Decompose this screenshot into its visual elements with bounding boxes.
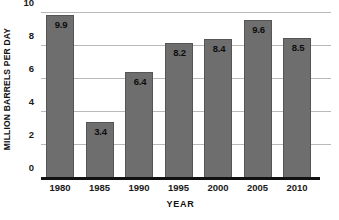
x-tick-label: 2010	[275, 182, 319, 193]
bar-group[interactable]: 9.6	[244, 13, 272, 178]
bar-value-label: 3.4	[87, 126, 115, 137]
bar-group[interactable]: 8.4	[204, 13, 232, 178]
bar-value-label: 9.9	[47, 19, 75, 30]
y-tick-label: 10	[23, 0, 34, 8]
bar-group[interactable]: 8.2	[165, 13, 193, 178]
bar[interactable]: 8.4	[204, 39, 232, 178]
bar[interactable]: 3.4	[86, 122, 114, 178]
x-tick-label: 1995	[157, 182, 201, 193]
bar-group[interactable]: 8.5	[283, 13, 311, 178]
x-axis-tick-labels: 1980198519901995200020052010	[41, 182, 331, 196]
x-axis-title: YEAR	[41, 199, 320, 209]
x-tick-label: 1980	[38, 182, 82, 193]
y-tick-label: 0	[29, 162, 34, 173]
bar[interactable]: 8.2	[165, 43, 193, 178]
x-axis-line	[41, 177, 320, 180]
bars-layer: 9.93.46.48.28.49.68.5	[41, 13, 331, 178]
x-tick-label: 2005	[236, 182, 280, 193]
y-tick-label: 2	[29, 129, 34, 140]
y-axis-tick-labels: 1086420	[16, 13, 38, 178]
bar[interactable]: 9.6	[244, 20, 272, 178]
x-tick-label: 1985	[78, 182, 122, 193]
bar-group[interactable]: 6.4	[125, 13, 153, 178]
bar-value-label: 8.2	[166, 47, 194, 58]
bar-value-label: 8.4	[205, 43, 233, 54]
bar-group[interactable]: 9.9	[46, 13, 74, 178]
bar-value-label: 8.5	[284, 42, 312, 53]
bar-value-label: 9.6	[245, 24, 273, 35]
bar-value-label: 6.4	[126, 76, 154, 87]
x-tick-label: 1990	[117, 182, 161, 193]
bar[interactable]: 6.4	[125, 72, 153, 178]
bar[interactable]: 8.5	[283, 38, 311, 178]
y-tick-label: 6	[29, 63, 34, 74]
bar[interactable]: 9.9	[46, 15, 74, 178]
x-tick-label: 2000	[196, 182, 240, 193]
bar-chart: MILLION BARRELS PER DAY 1086420 9.93.46.…	[0, 0, 339, 220]
y-tick-label: 4	[29, 96, 34, 107]
y-axis-title: MILLION BARRELS PER DAY	[0, 0, 14, 178]
bar-group[interactable]: 3.4	[86, 13, 114, 178]
y-axis-title-text: MILLION BARRELS PER DAY	[2, 28, 12, 150]
y-tick-label: 8	[29, 30, 34, 41]
